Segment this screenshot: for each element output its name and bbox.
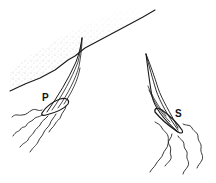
port-wake-2 <box>13 115 42 136</box>
sailing-diagram: P S <box>0 0 216 183</box>
shore-fade <box>10 4 155 92</box>
starboard-wake-3 <box>183 124 203 168</box>
port-wake-5 <box>49 106 66 132</box>
starboard-label: S <box>175 108 182 119</box>
starboard-wake-2 <box>178 136 189 174</box>
shore <box>10 4 155 92</box>
port-wake-1 <box>12 109 42 117</box>
boat-starboard: S <box>146 54 203 174</box>
port-label: P <box>42 92 49 103</box>
starboard-wake-1 <box>155 122 171 166</box>
